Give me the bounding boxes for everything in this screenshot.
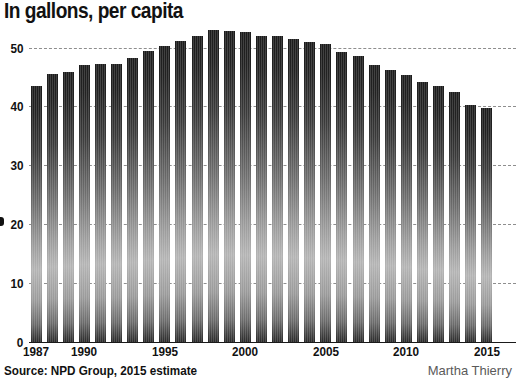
bar: [401, 75, 412, 342]
chart-title: In gallons, per capita: [4, 0, 183, 24]
bar: [353, 56, 364, 342]
y-axis-marker: [0, 217, 4, 226]
bar: [240, 32, 251, 342]
bar: [79, 65, 90, 342]
y-tick-label: 30: [10, 158, 23, 173]
credit-note: Martha Thierry: [428, 363, 512, 378]
x-tick-label: 2010: [393, 344, 419, 359]
bar: [481, 108, 492, 342]
bar: [433, 86, 444, 342]
bar: [111, 64, 122, 342]
chart-figure: In gallons, per capita 01020304050 19871…: [0, 0, 517, 384]
x-tick-label: 2015: [474, 344, 500, 359]
bar: [95, 64, 106, 342]
bar: [256, 36, 267, 342]
axis-baseline: [29, 342, 516, 343]
bar: [143, 51, 154, 343]
y-axis: 01020304050: [0, 24, 27, 342]
bar-series: [29, 24, 516, 342]
y-tick-label: 10: [10, 276, 23, 291]
bar: [175, 41, 186, 343]
x-tick-label: 1995: [152, 344, 178, 359]
x-axis: 1987199019952000200520102015: [29, 344, 516, 362]
bar: [127, 58, 138, 342]
x-tick-label: 1987: [23, 344, 49, 359]
bar: [449, 92, 460, 342]
bar: [288, 39, 299, 342]
y-tick-label: 50: [10, 40, 23, 55]
y-tick-label: 20: [10, 217, 23, 232]
bar: [304, 42, 315, 342]
y-tick-label: 40: [10, 99, 23, 114]
bar: [272, 36, 283, 342]
bar: [369, 65, 380, 342]
bar: [320, 44, 331, 342]
bar: [336, 52, 347, 342]
bar: [224, 31, 235, 342]
bar: [385, 70, 396, 342]
x-tick-label: 1990: [71, 344, 97, 359]
source-note: Source: NPD Group, 2015 estimate: [4, 363, 197, 378]
bar: [63, 72, 74, 342]
plot-area: [29, 24, 516, 342]
bar: [47, 74, 58, 342]
bar: [465, 105, 476, 342]
bar: [192, 36, 203, 342]
bar: [417, 82, 428, 342]
x-tick-label: 2000: [232, 344, 258, 359]
bar: [31, 86, 42, 342]
bar: [208, 30, 219, 342]
x-tick-label: 2005: [313, 344, 339, 359]
bar: [159, 46, 170, 342]
